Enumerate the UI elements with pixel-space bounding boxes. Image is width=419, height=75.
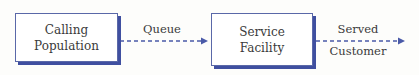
service-facility-line1: Service [239,24,285,40]
calling-population-line1: Calling [34,22,99,38]
calling-population-line2: Population [34,38,99,54]
service-facility-line2: Facility [239,40,285,56]
customer-label: Customer [330,44,387,58]
served-label: Served [338,22,379,36]
queue-arrow [120,38,208,45]
service-facility-box: Service Facility [211,13,313,66]
calling-population-box: Calling Population [15,13,118,62]
queue-label: Queue [143,22,181,36]
